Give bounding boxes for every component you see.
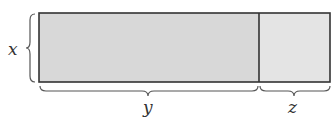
width-brace-z <box>260 86 330 96</box>
width-brace-y <box>40 86 258 96</box>
area-diagram: x y z <box>0 0 336 131</box>
height-brace <box>26 14 35 82</box>
region-xy <box>39 13 259 82</box>
label-x: x <box>8 39 18 59</box>
region-xz <box>259 13 330 82</box>
label-z: z <box>287 97 298 117</box>
label-y: y <box>142 97 153 117</box>
